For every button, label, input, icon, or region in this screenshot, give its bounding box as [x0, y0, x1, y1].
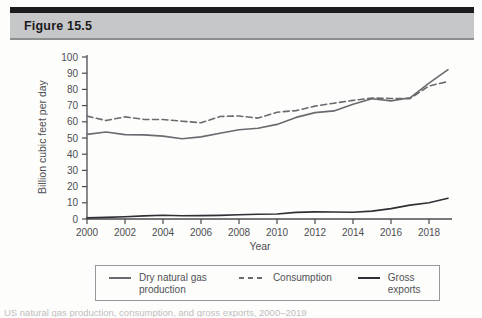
legend-label-production: Dry natural gas production: [139, 272, 213, 296]
x-tick-label: 2002: [114, 227, 137, 238]
x-axis-title: Year: [80, 240, 440, 252]
figure-label: Figure 15.5: [10, 19, 92, 33]
solid-line-swatch: [109, 277, 131, 279]
y-tick-label: 50: [67, 133, 79, 144]
x-tick-label: 2008: [228, 227, 251, 238]
x-tick-label: 2010: [266, 227, 289, 238]
y-tick-label: 10: [67, 197, 79, 208]
figure-header-bar: Figure 15.5: [10, 13, 474, 40]
x-tick-label: 2014: [342, 227, 365, 238]
x-tick-label: 2016: [380, 227, 403, 238]
figure-page: Figure 15.5 Billion cubic feet per day 0…: [0, 0, 482, 318]
x-tick-label: 2018: [418, 227, 441, 238]
legend-label-consumption: Consumption: [273, 272, 332, 284]
x-tick-label: 2004: [152, 227, 175, 238]
chart-legend: Dry natural gas production Consumption G…: [95, 265, 440, 301]
caption-partial-cutoff: US natural gas production, consumption, …: [4, 307, 478, 317]
legend-item-consumption: Consumption: [239, 272, 332, 284]
y-tick-label: 80: [67, 84, 79, 95]
y-tick-label: 30: [67, 165, 79, 176]
y-tick-label: 90: [67, 68, 79, 79]
x-tick-label: 2012: [304, 227, 327, 238]
y-tick-label: 40: [67, 149, 79, 160]
series-line-0: [87, 70, 448, 139]
legend-item-gross-exports: Gross exports: [358, 272, 439, 296]
y-tick-label: 0: [72, 214, 78, 225]
line-chart: 0102030405060708090100200020022004200620…: [0, 40, 482, 262]
series-line-1: [87, 82, 448, 123]
dashed-line-swatch: [239, 277, 265, 279]
series-line-2: [87, 198, 448, 218]
legend-item-production: Dry natural gas production: [109, 272, 213, 296]
y-tick-label: 100: [61, 52, 78, 63]
y-tick-label: 70: [67, 100, 79, 111]
x-tick-label: 2000: [76, 227, 99, 238]
legend-label-gross-exports: Gross exports: [388, 272, 439, 296]
x-tick-label: 2006: [190, 227, 213, 238]
y-tick-label: 20: [67, 181, 79, 192]
solid-dark-line-swatch: [358, 277, 380, 279]
y-tick-label: 60: [67, 116, 79, 127]
